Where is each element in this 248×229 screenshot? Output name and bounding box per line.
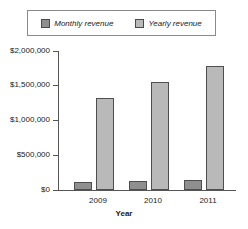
plot-area [58, 51, 234, 190]
y-axis-tick-0 [53, 190, 58, 191]
bar-yearly-revenue-2011 [206, 66, 224, 190]
x-axis-title: Year [0, 209, 248, 218]
legend-item-monthly-revenue: Monthly revenue [41, 19, 113, 28]
bar-group-2011 [184, 51, 232, 190]
x-axis-line [58, 190, 236, 191]
chart-legend: Monthly revenue Yearly revenue [27, 10, 216, 36]
bar-monthly-revenue-2010 [129, 181, 147, 190]
legend-item-yearly-revenue: Yearly revenue [135, 19, 201, 28]
legend-label-monthly-revenue: Monthly revenue [54, 19, 113, 28]
bar-chart: Monthly revenue Yearly revenue $2,000,00… [0, 0, 248, 229]
y-axis-label-0: $0 [41, 186, 50, 194]
legend-swatch-monthly-revenue [41, 19, 50, 28]
x-axis-label-2010: 2010 [129, 196, 177, 205]
bar-yearly-revenue-2009 [96, 98, 114, 190]
bar-yearly-revenue-2010 [151, 82, 169, 190]
bar-monthly-revenue-2009 [74, 182, 92, 190]
legend-swatch-yearly-revenue [135, 19, 144, 28]
y-axis-label-2000000: $2,000,000 [10, 47, 50, 55]
bar-group-2010 [129, 51, 177, 190]
y-axis-label-500000: $500,000 [17, 151, 50, 159]
bar-group-2009 [74, 51, 122, 190]
x-axis-label-2011: 2011 [184, 196, 232, 205]
legend-label-yearly-revenue: Yearly revenue [148, 19, 201, 28]
y-axis-label-1500000: $1,500,000 [10, 81, 50, 89]
y-axis-label-1000000: $1,000,000 [10, 116, 50, 124]
bar-monthly-revenue-2011 [184, 180, 202, 190]
x-axis-label-2009: 2009 [74, 196, 122, 205]
